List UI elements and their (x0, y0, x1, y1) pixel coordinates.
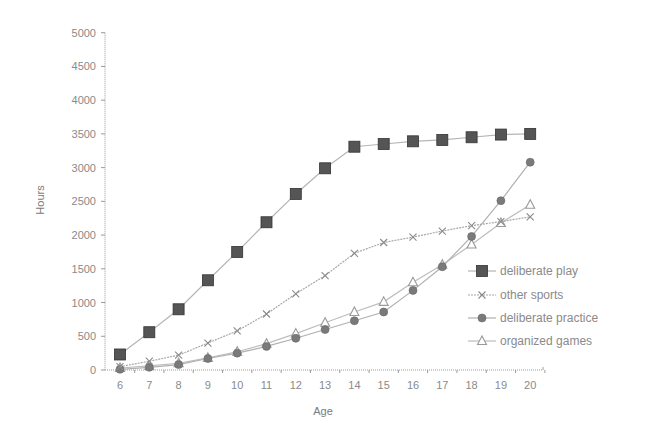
y-tick-label: 2500 (72, 195, 96, 207)
circle-marker (321, 326, 329, 334)
x-tick-label: 14 (348, 379, 360, 391)
x-tick-label: 11 (261, 379, 272, 391)
circle-marker (175, 361, 183, 369)
circle-marker (438, 263, 446, 271)
square-marker (495, 129, 506, 140)
legend-label: organized games (500, 334, 592, 348)
square-marker (408, 136, 419, 147)
square-marker (202, 275, 213, 286)
x-tick-label: 9 (205, 379, 211, 391)
y-tick-label: 2000 (72, 229, 96, 241)
triangle-marker (467, 240, 476, 249)
circle-marker (263, 342, 271, 350)
x-tick-label: 12 (290, 379, 302, 391)
y-axis-title: Hours (34, 185, 46, 215)
legend-label: deliberate play (500, 264, 578, 278)
y-tick-label: 1500 (72, 263, 96, 275)
y-tick-label: 500 (78, 330, 96, 342)
x-marker (322, 272, 329, 279)
legend-item-deliberate-play: deliberate play (468, 264, 578, 278)
x-marker (263, 311, 270, 318)
x-marker (351, 250, 358, 257)
x-marker (234, 327, 241, 334)
y-tick-label: 5000 (72, 27, 96, 39)
circle-marker (350, 317, 358, 325)
x-tick-label: 15 (378, 379, 390, 391)
y-tick-label: 4500 (72, 60, 96, 72)
square-marker (261, 217, 272, 228)
line-chart: 0500100015002000250030003500400045005000… (0, 0, 647, 444)
circle-marker (380, 308, 388, 316)
x-tick-label: 8 (176, 379, 182, 391)
x-marker (204, 340, 211, 347)
triangle-marker-icon (478, 336, 487, 345)
x-tick-label: 17 (436, 379, 448, 391)
x-tick-label: 16 (407, 379, 419, 391)
y-tick-label: 3500 (72, 128, 96, 140)
legend-label: deliberate practice (500, 311, 598, 325)
square-marker (466, 132, 477, 143)
x-axis-title: Age (313, 405, 333, 417)
square-marker-icon (477, 266, 488, 277)
series-line (120, 162, 530, 369)
square-marker (437, 134, 448, 145)
circle-marker (233, 349, 241, 357)
square-marker (349, 141, 360, 152)
square-marker (525, 128, 536, 139)
square-marker (232, 246, 243, 257)
square-marker (378, 139, 389, 150)
x-tick-label: 18 (465, 379, 477, 391)
triangle-marker (526, 200, 535, 209)
triangle-marker (409, 277, 418, 286)
x-tick-label: 13 (319, 379, 331, 391)
circle-marker (409, 286, 417, 294)
triangle-marker (379, 297, 388, 306)
circle-marker (526, 158, 534, 166)
circle-marker (497, 197, 505, 205)
y-tick-label: 4000 (72, 94, 96, 106)
y-tick-label: 0 (90, 364, 96, 376)
y-tick-label: 1000 (72, 297, 96, 309)
y-axis: 0500100015002000250030003500400045005000 (72, 27, 105, 376)
y-tick-label: 3000 (72, 162, 96, 174)
x-marker (292, 290, 299, 297)
x-tick-label: 19 (495, 379, 507, 391)
legend: deliberate playother sportsdeliberate pr… (468, 264, 598, 348)
plot-area (115, 128, 536, 373)
x-tick-label: 10 (231, 379, 243, 391)
x-axis: 67891011121314151617181920 (105, 367, 545, 391)
legend-label: other sports (500, 288, 563, 302)
x-tick-label: 7 (146, 379, 152, 391)
square-marker (144, 327, 155, 338)
square-marker (115, 349, 126, 360)
x-tick-label: 6 (117, 379, 123, 391)
legend-item-organized-games: organized games (468, 334, 592, 348)
square-marker (173, 304, 184, 315)
circle-marker (204, 355, 212, 363)
square-marker (320, 163, 331, 174)
x-tick-label: 20 (524, 379, 536, 391)
legend-item-other-sports: other sports (468, 288, 563, 302)
legend-item-deliberate-practice: deliberate practice (468, 311, 598, 325)
circle-marker (468, 232, 476, 240)
circle-marker (292, 334, 300, 342)
square-marker (290, 188, 301, 199)
circle-marker-icon (478, 314, 486, 322)
